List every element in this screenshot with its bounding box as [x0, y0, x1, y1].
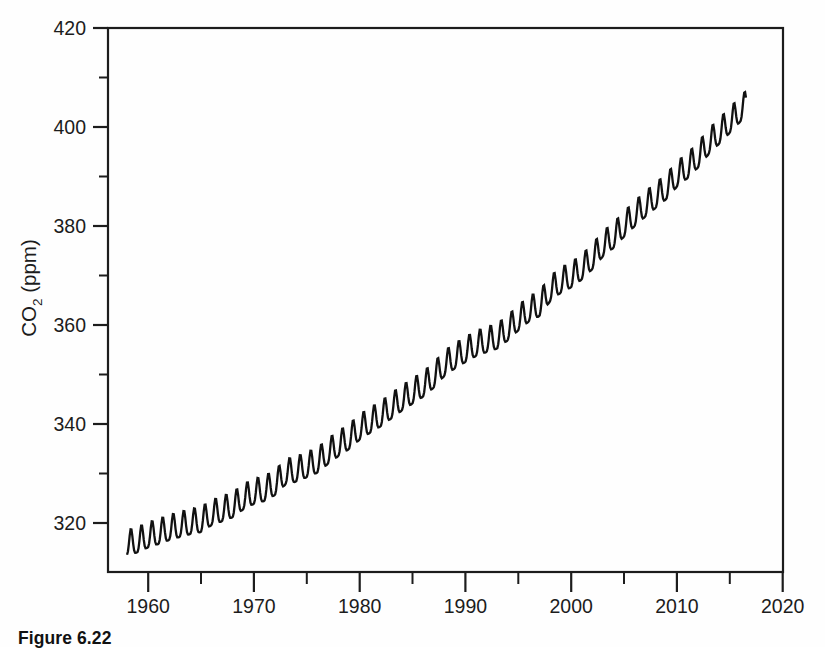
y-tick-label-360: 360: [53, 314, 86, 336]
y-tick-label-340: 340: [53, 413, 86, 435]
x-tick-label-2020: 2020: [761, 595, 805, 617]
x-tick-label-1980: 1980: [338, 595, 382, 617]
x-axis-major-ticks: [148, 572, 783, 592]
x-tick-label-1990: 1990: [444, 595, 488, 617]
x-axis-tick-labels: 1960 1970 1980 1990 2000 2010 2020: [127, 595, 805, 617]
y-axis-title-subscript: 2: [30, 298, 45, 306]
x-tick-label-2000: 2000: [550, 595, 594, 617]
x-tick-label-2010: 2010: [655, 595, 699, 617]
x-tick-label-1970: 1970: [232, 595, 276, 617]
y-tick-label-400: 400: [53, 116, 86, 138]
y-axis-title-co: CO: [17, 306, 40, 337]
y-tick-label-320: 320: [53, 512, 86, 534]
y-axis-tick-labels: 420 400 380 360 340 320: [53, 17, 86, 534]
y-axis-title: CO2 (ppm): [17, 239, 45, 337]
y-axis-title-text: CO2 (ppm): [17, 239, 45, 337]
plot-background: [108, 28, 783, 572]
y-axis-title-units: (ppm): [17, 239, 40, 293]
figure-caption: Figure 6.22: [18, 628, 112, 649]
y-axis-minor-ticks: [99, 78, 108, 474]
x-tick-label-1960: 1960: [127, 595, 171, 617]
y-tick-label-380: 380: [53, 215, 86, 237]
y-tick-label-420: 420: [53, 17, 86, 39]
